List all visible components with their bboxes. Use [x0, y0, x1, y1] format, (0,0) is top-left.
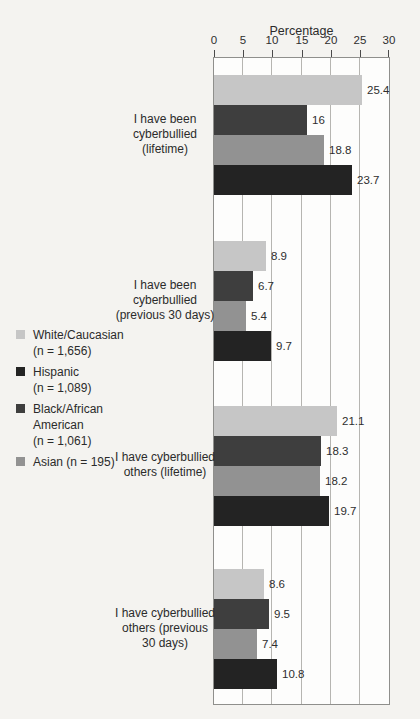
legend-swatch-icon — [16, 367, 25, 376]
bar-value-label: 10.8 — [282, 668, 304, 680]
bar-value-label: 18.8 — [329, 144, 351, 156]
bar-value-label: 18.3 — [326, 445, 348, 457]
legend-label: Asian (n = 195) — [33, 454, 115, 470]
axis-tick-label-5: 5 — [240, 34, 246, 46]
category-label-1: I have been cyberbullied (lifetime) — [98, 112, 232, 157]
figure: Percentage 05101520253025.41618.823.78.9… — [0, 0, 420, 719]
category-label-2: I have been cyberbullied (previous 30 da… — [98, 278, 232, 323]
bar-value-label: 23.7 — [357, 174, 379, 186]
legend-item-3: Black/African American (n = 1,061) — [16, 401, 186, 449]
axis-tick-10 — [272, 50, 273, 57]
bar-value-label: 9.5 — [274, 608, 290, 620]
axis-tick-label-20: 20 — [325, 34, 338, 46]
legend-label: Black/African American (n = 1,061) — [33, 401, 103, 449]
bar-value-label: 8.6 — [269, 578, 285, 590]
axis-tick-label-30: 30 — [383, 34, 396, 46]
legend-label: White/Caucasian (n = 1,656) — [33, 327, 124, 359]
legend-swatch-icon — [16, 330, 25, 339]
legend-item-1: White/Caucasian (n = 1,656) — [16, 327, 186, 359]
bar-white-caucasian-cat1 — [214, 75, 362, 105]
bar-value-label: 18.2 — [325, 475, 347, 487]
bar-value-label: 6.7 — [258, 280, 274, 292]
bar-white-caucasian-cat4 — [214, 569, 264, 599]
bar-hispanic-cat1 — [214, 165, 352, 195]
legend-item-2: Hispanic (n = 1,089) — [16, 364, 186, 396]
bar-value-label: 8.9 — [271, 250, 287, 262]
bar-value-label: 19.7 — [334, 505, 356, 517]
bar-value-label: 9.7 — [276, 340, 292, 352]
bar-value-label: 5.4 — [251, 310, 267, 322]
axis-tick-20 — [331, 50, 332, 57]
bar-value-label: 21.1 — [342, 415, 364, 427]
axis-tick-30 — [388, 50, 389, 57]
bar-hispanic-cat4 — [214, 659, 277, 689]
axis-tick-0 — [214, 50, 215, 57]
legend-label: Hispanic (n = 1,089) — [33, 364, 91, 396]
bar-hispanic-cat2 — [214, 331, 271, 361]
axis-tick-label-0: 0 — [211, 34, 217, 46]
bar-white-caucasian-cat3 — [214, 406, 337, 436]
category-label-4: I have cyberbullied others (previous 30 … — [98, 606, 232, 651]
bar-value-label: 7.4 — [262, 638, 278, 650]
bar-hispanic-cat3 — [214, 496, 329, 526]
axis-tick-label-10: 10 — [266, 34, 279, 46]
axis-tick-label-15: 15 — [296, 34, 309, 46]
axis-tick-15 — [302, 50, 303, 57]
legend-swatch-icon — [16, 457, 25, 466]
axis-tick-5 — [243, 50, 244, 57]
legend-swatch-icon — [16, 404, 25, 413]
legend-item-4: Asian (n = 195) — [16, 454, 186, 470]
axis-tick-label-25: 25 — [354, 34, 367, 46]
bar-value-label: 16 — [312, 114, 325, 126]
bar-white-caucasian-cat2 — [214, 241, 266, 271]
gridline-25 — [359, 58, 360, 704]
bar-value-label: 25.4 — [367, 84, 389, 96]
axis-tick-25 — [360, 50, 361, 57]
plot-area: 05101520253025.41618.823.78.96.75.49.721… — [213, 57, 390, 705]
legend: White/Caucasian (n = 1,656)Hispanic (n =… — [16, 327, 186, 475]
